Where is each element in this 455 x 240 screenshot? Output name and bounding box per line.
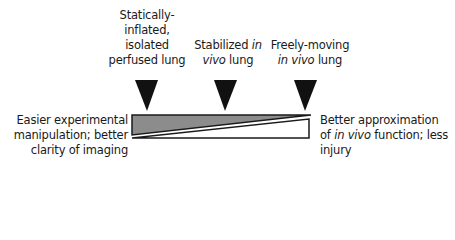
left-label-line: Easier experimental bbox=[0, 113, 128, 128]
right-label: Better approximation of in vivo function… bbox=[320, 113, 455, 158]
right-label-line: of in vivo function; less bbox=[320, 128, 455, 143]
marker-triangle-stabilized-in-vivo bbox=[214, 80, 237, 111]
right-label-line: Better approximation bbox=[320, 113, 455, 128]
marker-triangle-freely-moving-in-vivo bbox=[294, 80, 317, 111]
left-label-line: clarity of imaging bbox=[0, 143, 128, 158]
marker-triangle-static-isolated bbox=[135, 80, 158, 111]
left-label: Easier experimental manipulation; better… bbox=[0, 113, 128, 158]
left-label-line: manipulation; better bbox=[0, 128, 128, 143]
right-label-line: injury bbox=[320, 143, 455, 158]
